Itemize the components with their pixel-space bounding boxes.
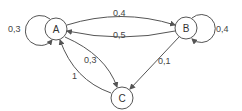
node-c-label: C <box>118 93 125 104</box>
edge-label-a-b: 0,4 <box>113 8 126 18</box>
node-c: C <box>111 87 133 109</box>
edge-b-c <box>130 37 179 89</box>
edge-label-b-c: 0,1 <box>158 56 171 66</box>
node-a: A <box>45 18 67 40</box>
edge-label-b-b: 0,4 <box>216 24 229 34</box>
node-a-label: A <box>53 24 60 35</box>
node-b-label: B <box>183 23 190 34</box>
node-b: B <box>175 17 197 39</box>
edge-label-a-a: 0,3 <box>8 24 21 34</box>
state-diagram: 0,3 0,4 0,5 0,4 0,3 1 0,1 A B C <box>0 0 242 111</box>
edge-label-a-c: 0,3 <box>84 55 97 65</box>
edge-label-c-a: 1 <box>72 71 77 81</box>
edge-label-b-a: 0,5 <box>113 30 126 40</box>
diagram-canvas: 0,3 0,4 0,5 0,4 0,3 1 0,1 A B C <box>0 0 242 111</box>
